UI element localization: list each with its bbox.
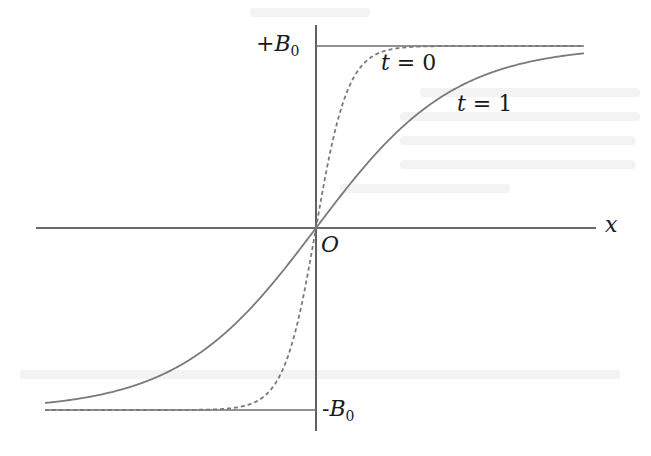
plot-canvas — [0, 0, 651, 456]
origin-label: O — [321, 234, 339, 256]
top-level-label: +B0 — [256, 33, 300, 58]
bottom-level-label: -B0 — [322, 398, 355, 423]
curve-label-t1: t = 1 — [457, 93, 512, 115]
x-axis-label: x — [605, 214, 617, 236]
curve-label-t0: t = 0 — [381, 52, 436, 74]
figure: +B0 -B0 t = 0 t = 1 x O — [0, 0, 651, 456]
